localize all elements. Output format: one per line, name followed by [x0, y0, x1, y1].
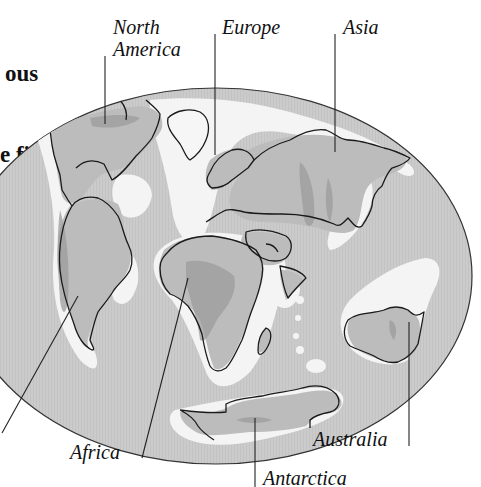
- label-north-america-line2: America: [113, 38, 181, 60]
- label-north-america-line1: North: [113, 16, 181, 38]
- continent-map-figure: ous e first rized d: [0, 0, 481, 487]
- label-europe: Europe: [222, 16, 280, 38]
- label-asia: Asia: [343, 16, 379, 38]
- label-africa: Africa: [70, 441, 120, 463]
- world-map-svg: [0, 0, 481, 487]
- label-australia: Australia: [313, 428, 387, 450]
- label-north-america: North America: [113, 16, 181, 60]
- label-antarctica: Antarctica: [263, 467, 347, 487]
